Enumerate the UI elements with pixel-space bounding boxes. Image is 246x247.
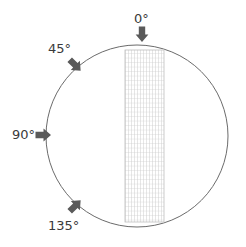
figure-canvas: . 0° 45° 90° 135°	[0, 0, 246, 247]
grid-rectangle: .	[125, 50, 164, 222]
marker-arrow-90	[36, 129, 52, 142]
marker-arrow-45	[65, 55, 85, 75]
figure-vector-layer: .	[0, 0, 246, 247]
angle-label-90: 90°	[12, 128, 35, 141]
marker-arrow-0	[136, 27, 149, 43]
angle-label-135: 135°	[48, 219, 79, 232]
angle-label-0: 0°	[134, 12, 149, 25]
marker-arrow-135	[65, 196, 85, 216]
angle-label-45: 45°	[48, 42, 71, 55]
grid-corner-mark: .	[158, 218, 159, 222]
